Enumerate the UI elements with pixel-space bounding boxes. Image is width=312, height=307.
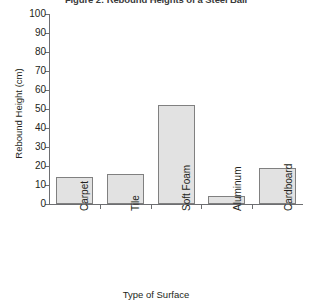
x-label-tile: Tile xyxy=(130,195,141,211)
y-axis-line xyxy=(49,14,50,204)
x-tick-3 xyxy=(252,204,253,209)
x-tick-1 xyxy=(151,204,152,209)
x-label-soft-foam: Soft Foam xyxy=(181,165,192,211)
y-tick-label-60: 60 xyxy=(16,84,46,95)
y-tick-label-100: 100 xyxy=(16,8,46,19)
rebound-height-bar-chart: Figure 2: Rebound Heights of a Steel Bal… xyxy=(0,0,312,307)
plot-area: 0102030405060708090100 xyxy=(49,14,303,204)
y-tick-label-70: 70 xyxy=(16,65,46,76)
chart-title: Figure 2: Rebound Heights of a Steel Bal… xyxy=(0,0,312,5)
x-label-aluminum: Aluminum xyxy=(232,167,243,211)
x-label-carpet: Carpet xyxy=(79,181,90,211)
y-tick-label-50: 50 xyxy=(16,103,46,114)
x-axis-title: Type of Surface xyxy=(0,289,312,300)
y-tick-label-30: 30 xyxy=(16,141,46,152)
y-tick-label-10: 10 xyxy=(16,179,46,190)
y-tick-label-20: 20 xyxy=(16,160,46,171)
y-tick-label-0: 0 xyxy=(16,198,46,209)
x-label-cardboard: Cardboard xyxy=(283,164,294,211)
y-tick-label-40: 40 xyxy=(16,122,46,133)
y-tick-label-90: 90 xyxy=(16,27,46,38)
y-tick-label-80: 80 xyxy=(16,46,46,57)
x-tick-2 xyxy=(201,204,202,209)
x-tick-0 xyxy=(100,204,101,209)
